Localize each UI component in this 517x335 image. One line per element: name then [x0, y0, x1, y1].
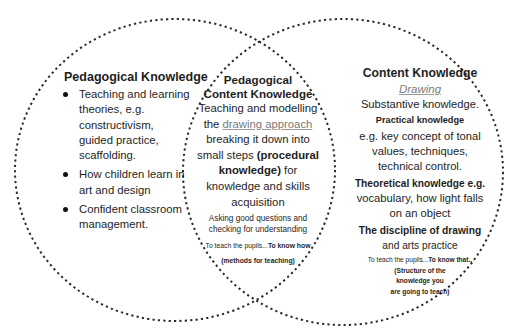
list-item-text: Confident classroom management. [79, 203, 182, 230]
pck-methods: (methods for teaching) [192, 256, 324, 265]
theoretical-knowledge-text: vocabulary, how light falls on an object [340, 191, 500, 221]
content-knowledge: Content Knowledge Drawing Substantive kn… [340, 65, 500, 297]
theoretical-knowledge-heading: Theoretical knowledge e.g. [340, 177, 500, 191]
practical-knowledge-text: e.g. key concept of tonal values, techni… [340, 129, 500, 174]
pck-teach-line: To teach the pupils...To know how [192, 241, 324, 250]
ck-structure-line1: (Structure of the [340, 266, 500, 277]
pedagogical-knowledge-list: Teaching and learning theories, e.g. con… [60, 87, 190, 237]
ck-teach-bold: To know that.. [428, 256, 472, 263]
bullet-icon [63, 172, 68, 177]
pck-description: Teaching and modelling the drawing appro… [192, 101, 324, 210]
bullet-icon [63, 92, 68, 97]
bullet-icon [63, 207, 68, 212]
list-item-text: Teaching and learning theories, e.g. con… [79, 88, 190, 161]
ck-teach-line: To teach the pupils...To know that.. [340, 255, 500, 266]
drawing-subject-link[interactable]: Drawing [340, 81, 500, 97]
list-item: How children learn in art and design [60, 167, 190, 198]
list-item: Teaching and learning theories, e.g. con… [60, 87, 190, 163]
pck-questions: Asking good questions and checking for u… [192, 213, 324, 235]
practical-knowledge-heading: Practical knowledge [340, 113, 500, 127]
ck-structure-line3: are going to teach) [340, 287, 500, 298]
substantive-knowledge: Substantive knowledge. [340, 97, 500, 112]
list-item-text: How children learn in art and design [79, 168, 185, 195]
pedagogical-content-knowledge: Pedagogical Content Knowledge Teaching a… [192, 73, 324, 265]
content-knowledge-title: Content Knowledge [340, 65, 500, 81]
ck-teach-prefix: To teach the pupils... [368, 256, 428, 263]
discipline-text: and arts practice [340, 238, 500, 253]
pck-teach-bold: To know how [268, 242, 311, 249]
ck-structure-line2: knowledge you [340, 276, 500, 287]
drawing-approach-link[interactable]: drawing approach [223, 118, 313, 130]
pedagogical-knowledge-title: Pedagogical Knowledge [64, 70, 208, 84]
pck-title-line2: Content Knowledge [192, 87, 324, 101]
discipline-heading: The discipline of drawing [340, 224, 500, 238]
pck-teach-prefix: To teach the pupils... [206, 242, 268, 249]
pck-title-line1: Pedagogical [192, 73, 324, 87]
list-item: Confident classroom management. [60, 202, 190, 233]
